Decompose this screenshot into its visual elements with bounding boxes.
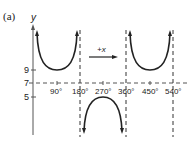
x-tick-360: 360°: [118, 88, 135, 96]
upper-branch-2: [130, 33, 170, 70]
cosecant-graph: [0, 0, 195, 141]
y-tick-5: 5: [24, 93, 29, 102]
arrow-head-icon: [112, 55, 118, 59]
x-tick-450: 450°: [142, 88, 159, 96]
lower-branch: [84, 97, 122, 131]
upper-branch-1: [37, 33, 77, 70]
x-tick-180: 180°: [72, 88, 89, 96]
x-tick-540: 540°: [165, 88, 182, 96]
y-tick-9: 9: [24, 66, 29, 75]
x-tick-270: 270°: [95, 88, 112, 96]
y-axis-arrow-icon: [31, 24, 35, 30]
x-tick-90: 90°: [50, 88, 62, 96]
annotation: +x: [97, 46, 106, 54]
y-tick-7: 7: [24, 79, 29, 88]
